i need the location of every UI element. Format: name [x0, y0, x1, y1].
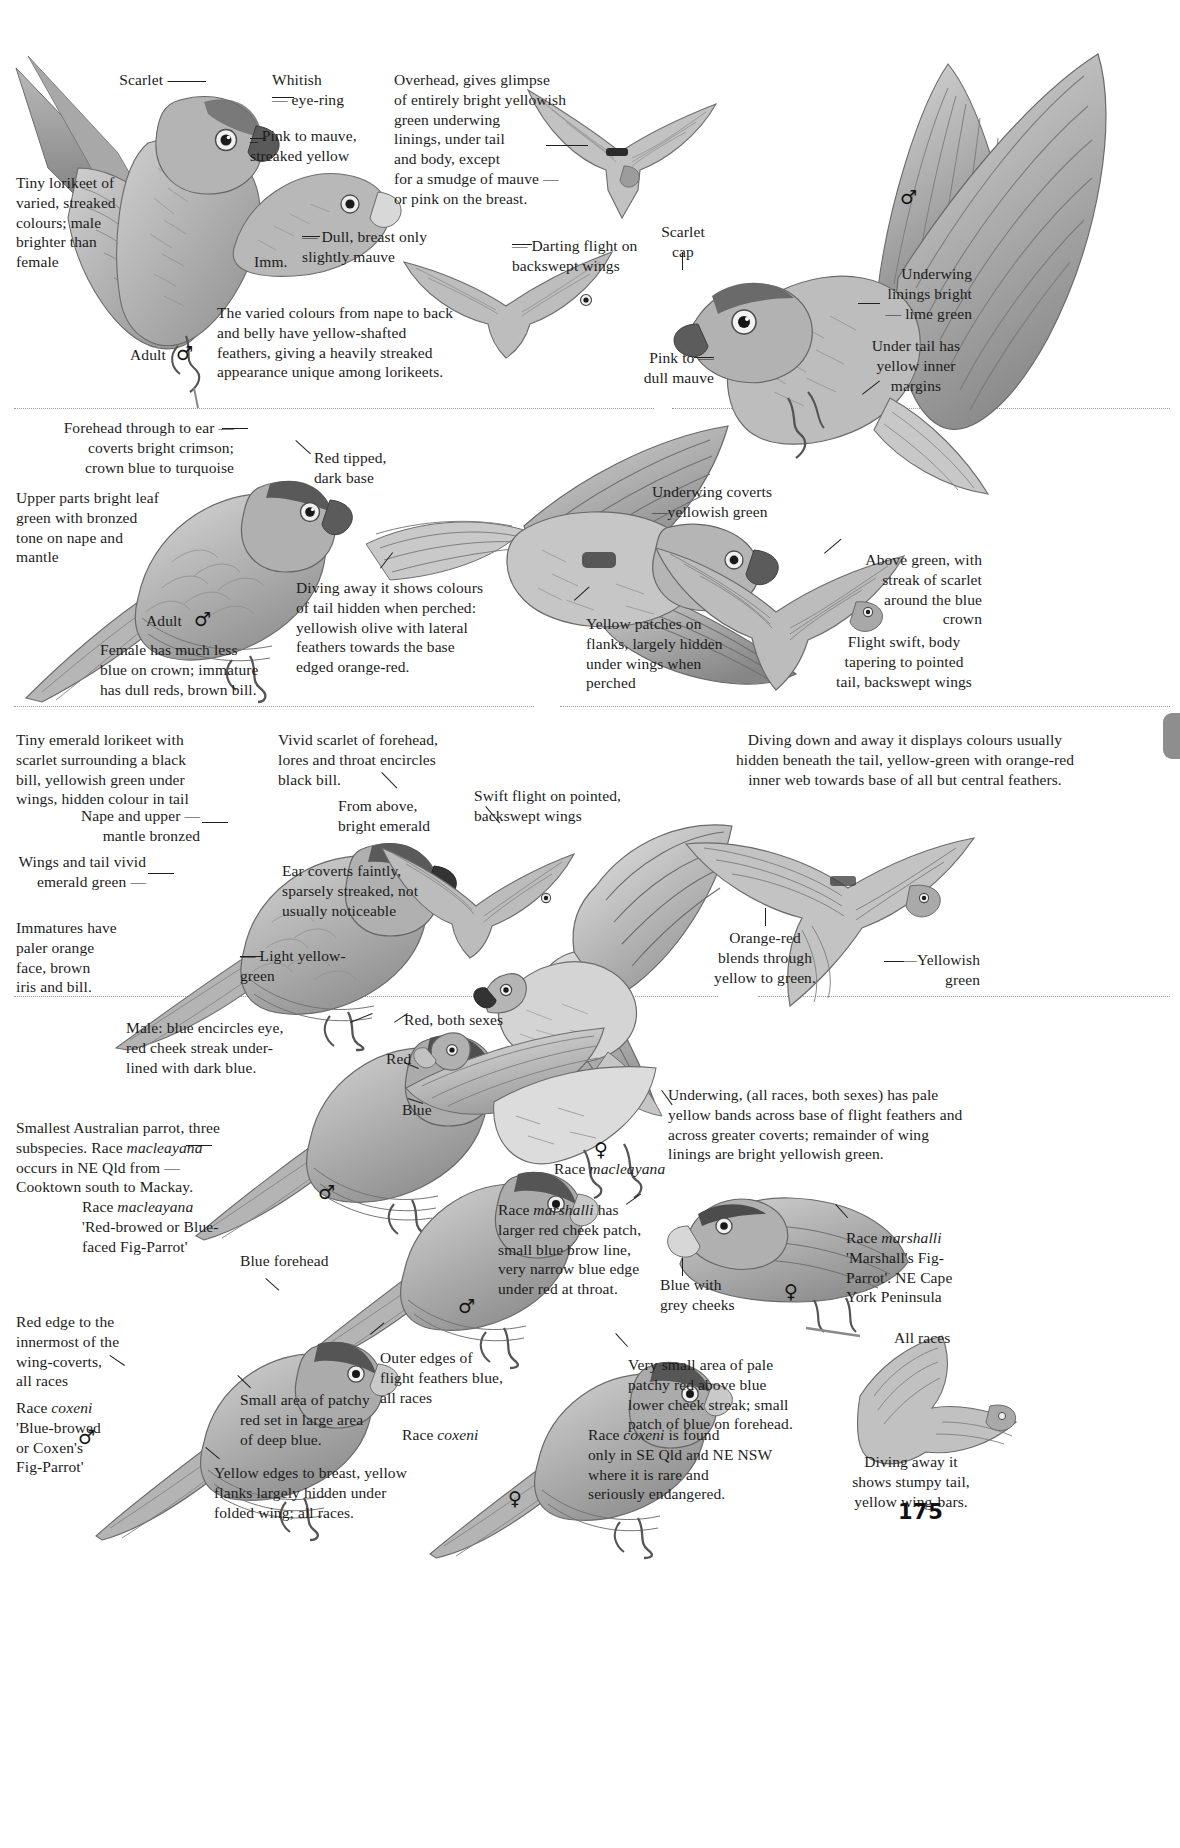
label-diving-down-away: Diving down and away it displays colours…	[640, 730, 1170, 789]
label-yellow-edges-breast: Yellow edges to breast, yellowflanks lar…	[214, 1463, 494, 1522]
label-underwing-coverts: Underwing coverts—yellowish green	[652, 482, 822, 522]
male-symbol-4: ♂	[318, 1183, 335, 1202]
label-orange-red-blends: Orange-redblends throughyellow to green.	[700, 928, 830, 987]
male-symbol-6: ♂	[78, 1428, 95, 1447]
label-scarlet-cap: Scarletcap	[648, 222, 718, 262]
male-symbol-3: ♂	[194, 610, 211, 629]
label-under-tail-yellow: Under tail hasyellow innermargins	[858, 336, 974, 395]
label-underwing-all-races: Underwing, (all races, both sexes) has p…	[668, 1085, 978, 1164]
label-race-macleayana-name: Race macleayana'Red-browed or Blue-faced…	[82, 1197, 272, 1256]
female-symbol-3: ♀	[508, 1489, 522, 1508]
label-ear-coverts-faintly: Ear coverts faintly,sparsely streaked, n…	[282, 861, 462, 920]
label-imm: Imm.	[254, 252, 314, 272]
label-nape-mantle-bronzed: Nape and upper —mantle bronzed	[60, 806, 200, 846]
label-underwing-linings: Underwinglinings bright— lime green	[856, 264, 972, 323]
label-red-tipped: Red tipped,dark base	[314, 448, 434, 488]
label-flight-swift: Flight swift, bodytapering to pointedtai…	[818, 632, 990, 691]
label-above-green-scarlet: Above green, withstreak of scarletaround…	[836, 550, 982, 629]
female-symbol-1: ♀	[594, 1140, 608, 1159]
leader-wings-tail-emerald	[148, 873, 174, 874]
label-forehead-crimson: Forehead through to ear —coverts bright …	[52, 418, 234, 477]
label-vivid-scarlet: Vivid scarlet of forehead,lores and thro…	[278, 730, 488, 789]
female-symbol-2: ♀	[784, 1282, 798, 1301]
label-race-coxeni-found: Race coxeni is foundonly in SE Qld and N…	[588, 1425, 818, 1504]
label-red-edge-innermost: Red edge to theinnermost of thewing-cove…	[16, 1312, 166, 1391]
label-from-above-emerald: From above,bright emerald	[338, 796, 468, 836]
male-symbol-1: ♂	[176, 344, 193, 363]
label-overhead-glimpse: Overhead, gives glimpseof entirely brigh…	[394, 70, 594, 209]
panel-separator-1a	[14, 408, 654, 409]
label-blue-with-grey-cheeks: Blue withgrey cheeks	[660, 1275, 770, 1315]
male-symbol-2: ♂	[900, 188, 917, 207]
label-all-races: All races	[894, 1328, 994, 1348]
label-upper-parts-leaf-green: Upper parts bright leafgreen with bronze…	[16, 488, 186, 567]
leader-nape-mantle	[202, 822, 228, 823]
bird-emerald-lorikeet-flight-diving	[678, 806, 978, 1026]
page-number: 175	[898, 1500, 943, 1524]
label-dull-breast: — Dull, breast only slightly mauve	[302, 227, 482, 267]
label-tiny-lorikeet: Tiny lorikeet ofvaried, streakedcolours;…	[16, 173, 156, 272]
label-immatures-paler: Immatures havepaler orangeface, browniri…	[16, 918, 156, 997]
label-tiny-emerald-lorikeet: Tiny emerald lorikeet withscarlet surrou…	[16, 730, 266, 809]
male-symbol-5: ♂	[458, 1297, 475, 1316]
leader-orange-red-blends	[765, 908, 766, 926]
label-pink-to-dull-mauve: Pink to —dull mauve	[600, 348, 714, 388]
label-whitish-eye-ring: Whitish— eye-ring	[272, 70, 402, 110]
label-wings-tail-emerald: Wings and tail vividemerald green —	[16, 852, 146, 892]
bird-fig-parrot-all-races-diving	[856, 1330, 1026, 1470]
label-swift-flight-pointed: Swift flight on pointed,backswept wings	[474, 786, 654, 826]
label-scarlet: Scarlet —	[96, 70, 206, 90]
label-red-both-sexes: Red, both sexes	[404, 1010, 534, 1030]
label-light-yellow-green: — Light yellow- green	[240, 946, 370, 986]
label-red: Red	[386, 1049, 446, 1069]
field-guide-page: Scarlet — Whitish— eye-ring _ Pink to ma…	[0, 0, 1180, 1848]
label-blue: Blue	[402, 1100, 462, 1120]
label-very-small-area-pale: Very small area of palepatchy red above …	[628, 1355, 828, 1434]
label-yellow-patches-flanks: Yellow patches onflanks, largely hiddenu…	[586, 614, 756, 693]
label-smallest-australian-parrot: Smallest Australian parrot, threesubspec…	[16, 1118, 266, 1197]
label-yellowish-green: —Yellowishgreen	[876, 950, 980, 990]
label-diving-away: Diving away it shows coloursof tail hidd…	[296, 578, 516, 677]
label-race-marshalli-name: Race marshalli'Marshall's Fig-Parrot'. N…	[846, 1228, 986, 1307]
label-outer-edges-blue: Outer edges offlight feathers blue,all r…	[380, 1348, 530, 1407]
label-pink-to-mauve: _ Pink to mauve, streaked yellow	[250, 126, 410, 166]
label-varied-colours: The varied colours from nape to backand …	[217, 303, 457, 382]
label-male-blue-encircles: Male: blue encircles eye,red cheek strea…	[126, 1018, 356, 1077]
label-race-coxeni-caption: Race coxeni	[402, 1425, 542, 1445]
label-blue-forehead: Blue forehead	[240, 1251, 380, 1271]
leader-blue-forehead	[265, 1278, 279, 1291]
